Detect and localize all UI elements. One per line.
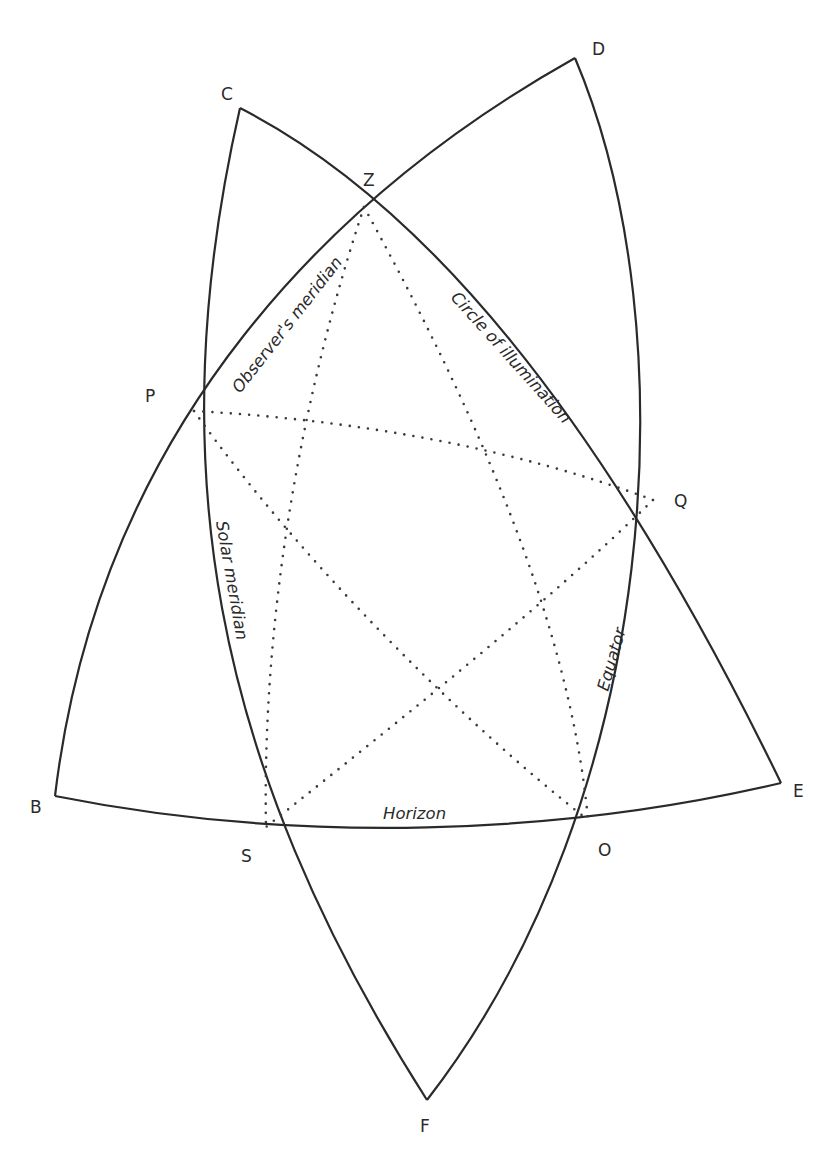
arc-equator: [427, 58, 640, 1100]
arc-circle-of-illumination: [240, 108, 781, 783]
point-label-p: P: [145, 386, 155, 406]
point-label-s: S: [241, 846, 252, 866]
point-label-z: Z: [363, 170, 375, 190]
dotted-arc-q-s: [266, 500, 653, 827]
label-horizon: Horizon: [383, 804, 446, 823]
celestial-diagram: B C D E F Z P Q S O Observer's meridian …: [0, 0, 836, 1158]
point-label-o: O: [598, 840, 611, 860]
point-label-b: B: [30, 797, 42, 817]
point-label-e: E: [793, 781, 804, 801]
label-circle-of-illumination: Circle of illumination: [447, 288, 575, 427]
point-label-q: Q: [674, 491, 687, 511]
label-observers-meridian: Observer's meridian: [228, 253, 346, 397]
arc-observers-meridian: [55, 58, 575, 796]
dotted-arc-p-q: [194, 411, 653, 500]
point-label-c: C: [221, 84, 233, 104]
dotted-arc-p-o: [194, 411, 588, 820]
label-equator: Equator: [594, 624, 630, 693]
point-label-d: D: [592, 39, 605, 59]
point-label-f: F: [420, 1116, 430, 1136]
